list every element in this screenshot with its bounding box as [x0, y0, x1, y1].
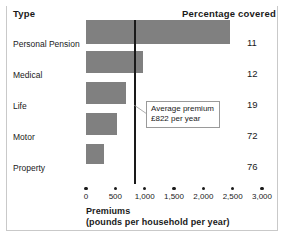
category-label-life: Life	[13, 101, 27, 111]
x-axis-tick-label: 500	[109, 192, 122, 201]
frame-left-border	[6, 6, 7, 230]
category-label-motor: Motor	[13, 132, 35, 142]
x-axis-tick-dot	[172, 187, 175, 190]
axis-title-line-2: (pounds per household per year)	[86, 217, 230, 227]
frame-right-border	[277, 6, 278, 230]
x-axis-tick-dot	[231, 187, 234, 190]
callout-line-1: Average premium	[151, 104, 216, 114]
callout-line-2: £822 per year	[151, 114, 216, 124]
x-axis-tick-dot	[114, 187, 117, 190]
x-axis-tick-dot	[202, 187, 205, 190]
axis-title-line-1: Premiums	[86, 206, 130, 216]
x-axis-tick-label: 3,000	[252, 192, 272, 201]
x-axis-tick-dot	[84, 187, 87, 190]
bar-property	[86, 144, 104, 164]
column-header-type: Type	[13, 8, 35, 19]
category-label-property: Property	[13, 163, 45, 173]
x-axis-tick-label: 1,000	[135, 192, 155, 201]
column-header-percentage-covered: Percentage covered	[182, 8, 276, 19]
category-label-personal-pension: Personal Pension	[13, 39, 80, 49]
bar-motor	[86, 113, 117, 135]
x-axis-tick-label: 2,000	[193, 192, 213, 201]
x-axis-tick-dot	[260, 187, 263, 190]
average-premium-reference-line	[134, 20, 135, 184]
chart-page: Type Percentage covered Personal Pension…	[0, 0, 285, 248]
x-axis-tick-label: 2,500	[223, 192, 243, 201]
bar-personal-pension	[86, 20, 230, 44]
average-premium-callout: Average premium £822 per year	[146, 101, 220, 128]
bar-life	[86, 82, 126, 104]
x-axis-tick-label: 0	[84, 192, 88, 201]
frame-bottom-border	[6, 230, 278, 231]
category-label-medical: Medical	[13, 70, 42, 80]
x-axis-tick-label: 1,500	[164, 192, 184, 201]
x-axis-tick-dot	[143, 187, 146, 190]
